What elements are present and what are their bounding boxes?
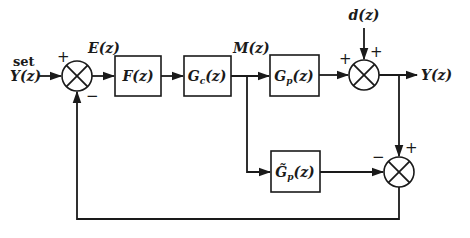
setpoint-label-y: Y(z) bbox=[10, 68, 41, 84]
block-diagram: set Y(z) + − E(z) F(z) Gc(z) M(z) Gp(z) … bbox=[0, 0, 470, 238]
output-label: Y(z) bbox=[421, 67, 452, 83]
sum-junction-model-error bbox=[384, 157, 414, 187]
setpoint-label-set: set bbox=[13, 54, 35, 69]
controller-label: Gc(z) bbox=[188, 68, 227, 86]
model-branch-wire bbox=[247, 76, 270, 172]
sign-plus-disturbance: + bbox=[370, 43, 383, 61]
sign-plus-output: + bbox=[405, 139, 418, 157]
model-label: G̃p(z) bbox=[275, 163, 314, 182]
manipulated-signal-label: M(z) bbox=[232, 40, 270, 56]
sign-minus-feedback: − bbox=[86, 87, 99, 105]
filter-label: F(z) bbox=[121, 68, 153, 84]
sign-plus-process: + bbox=[339, 50, 352, 68]
process-label: Gp(z) bbox=[274, 68, 313, 86]
error-signal-label: E(z) bbox=[87, 40, 120, 56]
feedback-wire bbox=[77, 92, 399, 219]
sign-plus-setpoint: + bbox=[57, 48, 70, 66]
sign-minus-model: − bbox=[372, 148, 385, 166]
sum-junction-disturbance bbox=[349, 60, 379, 90]
disturbance-label: d(z) bbox=[349, 7, 380, 23]
